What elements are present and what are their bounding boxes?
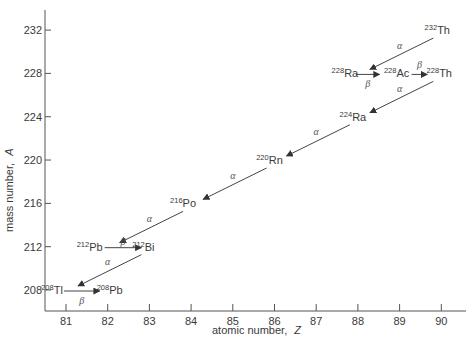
- decay-arrows: αββααααβαβ: [64, 38, 433, 306]
- x-tick-label: 81: [60, 315, 72, 327]
- beta-label: β: [120, 236, 126, 247]
- nuclide-label-208pb: 208Pb: [97, 283, 123, 296]
- nuclide-label-212pb: 212Pb: [77, 240, 103, 253]
- y-tick-label: 224: [24, 111, 42, 123]
- nuclide-label-208tl: 208Tl: [41, 283, 63, 296]
- x-tick-label: 90: [435, 315, 447, 327]
- y-tick-label: 220: [24, 154, 42, 166]
- nuclide-label-228ac: 228Ac: [384, 66, 410, 79]
- nuclide-label-228ra: 228Ra: [332, 66, 359, 79]
- y-tick-label: 232: [24, 24, 42, 36]
- x-tick-label: 89: [393, 315, 405, 327]
- decay-series-chart: 8182838485868788899020821221622022422823…: [0, 0, 469, 343]
- nuclide-label-220rn: 220Rn: [256, 153, 283, 166]
- x-tick-label: 88: [352, 315, 364, 327]
- beta-label: β: [78, 295, 84, 306]
- alpha-label: α: [397, 40, 403, 51]
- nuclide-label-228th: 228Th: [427, 66, 452, 79]
- beta-label: β: [416, 59, 422, 70]
- nuclide-label-212bi: 212Bi: [132, 240, 154, 253]
- alpha-label: α: [397, 83, 403, 94]
- nuclide-labels: 232Th228Ra228Ac228Th224Ra220Rn216Po212Pb…: [41, 23, 452, 296]
- alpha-label: α: [105, 256, 111, 267]
- x-tick-label: 83: [143, 315, 155, 327]
- x-tick-label: 87: [310, 315, 322, 327]
- x-tick-label: 84: [185, 315, 197, 327]
- beta-label: β: [364, 78, 370, 89]
- nuclide-label-232th: 232Th: [425, 23, 450, 36]
- y-axis-title: mass number, A: [3, 149, 15, 233]
- alpha-label: α: [314, 126, 320, 137]
- x-tick-label: 82: [102, 315, 114, 327]
- alpha-label: α: [230, 170, 236, 181]
- x-axis-title: atomic number, Z: [212, 324, 302, 336]
- alpha-label: α: [147, 213, 153, 224]
- nuclide-label-216po: 216Po: [170, 196, 196, 209]
- y-tick-label: 228: [24, 67, 42, 79]
- nuclide-label-224ra: 224Ra: [340, 110, 367, 123]
- y-tick-label: 216: [24, 197, 42, 209]
- y-tick-label: 208: [24, 284, 42, 296]
- y-tick-label: 212: [24, 241, 42, 253]
